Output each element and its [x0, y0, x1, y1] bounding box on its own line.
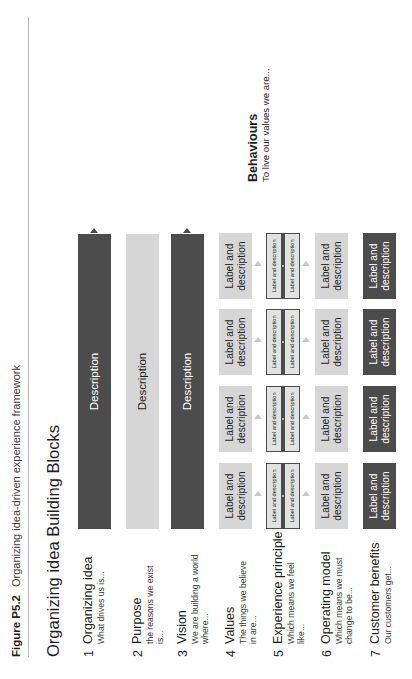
row-number: 5: [272, 650, 286, 657]
arrow-ep-1-down: [302, 491, 310, 496]
block-experience-principle-3[interactable]: Label and description Label and descript…: [266, 309, 300, 375]
block-vision-description[interactable]: Description: [171, 234, 204, 529]
caption-divider: [28, 17, 29, 657]
row-name: Vision: [176, 539, 189, 644]
row-label-vision: 3 Vision We are building a world where..…: [176, 539, 210, 657]
block-experience-principle-1[interactable]: Label and description Label and descript…: [266, 463, 300, 529]
block-customer-benefits-4[interactable]: Label and description: [363, 233, 396, 299]
block-customer-benefits-1[interactable]: Label and description: [363, 463, 396, 529]
row-number: 4: [224, 650, 238, 657]
row-number: 1: [82, 650, 96, 657]
arrow-ep-3-down: [302, 337, 310, 342]
experience-principle-3-top: Label and description: [267, 310, 281, 374]
arrow-values-2-down: [254, 414, 262, 419]
block-customer-benefits-2[interactable]: Label and description: [363, 386, 396, 452]
experience-principle-3-bottom: Label and description: [285, 310, 299, 374]
row-name: Values: [224, 539, 237, 644]
block-operating-model-3[interactable]: Label and description: [315, 309, 348, 375]
figure-rotation-wrapper: Figure P5.2Organizing idea-driven experi…: [0, 0, 412, 679]
experience-principle-4-top: Label and description: [267, 234, 281, 298]
block-values-1[interactable]: Label and description: [219, 463, 252, 529]
block-values-2[interactable]: Label and description: [219, 386, 252, 452]
row-subtitle: What drives us is...: [96, 552, 106, 644]
row-label-values: 4 Values The things we believe in are...: [224, 539, 258, 657]
experience-principle-1-top: Label and description: [267, 464, 281, 528]
page-title: Organizing idea Building Blocks: [44, 425, 63, 657]
figure-caption-text: Organizing idea-driven experience framew…: [10, 365, 22, 587]
behaviours-callout-title: Behaviours: [246, 32, 260, 182]
behaviours-callout-subtitle: To live our values we are...: [260, 32, 271, 182]
arrow-values-3-down: [254, 337, 262, 342]
row-label-purpose: 2 Purpose the reasons we exist is...: [131, 539, 165, 657]
arrow-ep-4-down: [302, 261, 310, 266]
experience-principle-2-top: Label and description: [267, 387, 281, 451]
row-label-operating-model: 6 Operating model Which means we must ch…: [320, 539, 354, 657]
row-number: 2: [131, 650, 145, 657]
row-name: Experience principle: [272, 539, 285, 644]
arrow-ep-2-down: [302, 414, 310, 419]
arrow-organizing-idea-to-purpose: [90, 228, 98, 233]
block-operating-model-1[interactable]: Label and description: [315, 463, 348, 529]
row-label-experience-principle: 5 Experience principle Which means we fe…: [272, 539, 306, 657]
row-name: Customer benefits: [369, 539, 382, 644]
row-name: Operating model: [320, 539, 333, 644]
block-organizing-idea-description[interactable]: Description: [78, 234, 111, 529]
row-label-organizing-idea: 1 Organizing idea What drives us is...: [82, 539, 106, 657]
experience-principle-4-bottom: Label and description: [285, 234, 299, 298]
block-operating-model-4[interactable]: Label and description: [315, 233, 348, 299]
row-subtitle: We are building a world where...: [190, 552, 210, 644]
arrow-values-1-down: [254, 491, 262, 496]
figure-caption: Figure P5.2Organizing idea-driven experi…: [10, 365, 22, 657]
block-experience-principle-4[interactable]: Label and description Label and descript…: [266, 233, 300, 299]
row-subtitle: Which means we feel like...: [286, 552, 306, 644]
block-operating-model-2[interactable]: Label and description: [315, 386, 348, 452]
experience-principle-2-bottom: Label and description: [285, 387, 299, 451]
row-number: 6: [320, 650, 334, 657]
experience-principle-1-bottom: Label and description: [285, 464, 299, 528]
row-subtitle: Our customers get...: [383, 552, 393, 644]
row-number: 3: [176, 650, 190, 657]
figure-caption-number: Figure P5.2: [10, 595, 22, 657]
row-name: Purpose: [131, 539, 144, 644]
row-label-customer-benefits: 7 Customer benefits Our customers get...: [369, 539, 393, 657]
figure-canvas: Figure P5.2Organizing idea-driven experi…: [0, 0, 412, 679]
block-values-4[interactable]: Label and description: [219, 233, 252, 299]
arrow-values-4-down: [254, 261, 262, 266]
row-subtitle: Which means we must change to be...: [334, 552, 354, 644]
row-name: Organizing idea: [82, 539, 95, 644]
block-customer-benefits-3[interactable]: Label and description: [363, 309, 396, 375]
behaviours-callout: Behaviours To live our values we are...: [246, 32, 271, 182]
row-subtitle: The things we believe in are...: [238, 552, 258, 644]
block-purpose-description[interactable]: Description: [126, 234, 159, 529]
row-number: 7: [369, 650, 383, 657]
row-subtitle: the reasons we exist is...: [145, 552, 165, 644]
arrow-vision-to-values: [183, 228, 191, 233]
block-experience-principle-2[interactable]: Label and description Label and descript…: [266, 386, 300, 452]
block-values-3[interactable]: Label and description: [219, 309, 252, 375]
